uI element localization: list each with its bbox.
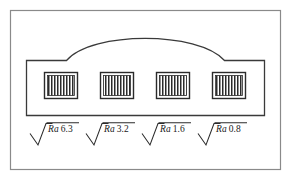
- surface-patch-4: [213, 73, 246, 99]
- ra-prefix-3: Ra: [160, 124, 173, 134]
- ra-prefix-2: Ra: [104, 124, 117, 134]
- roughness-label-4: Ra 0.8: [216, 124, 241, 134]
- roughness-label-3: Ra 1.6: [160, 124, 185, 134]
- ra-value-4: 0.8: [229, 124, 241, 134]
- engineering-drawing-figure: Ra 6.3 Ra 3.2 Ra 1.6 Ra 0.8: [0, 0, 291, 181]
- drawing-canvas: [0, 0, 291, 181]
- ra-value-2: 3.2: [117, 124, 129, 134]
- ra-value-1: 6.3: [61, 124, 73, 134]
- surface-patch-1: [45, 73, 78, 99]
- ra-prefix-1: Ra: [48, 124, 61, 134]
- roughness-label-2: Ra 3.2: [104, 124, 129, 134]
- surface-patch-3: [157, 73, 190, 99]
- ra-value-3: 1.6: [173, 124, 185, 134]
- roughness-label-1: Ra 6.3: [48, 124, 73, 134]
- ra-prefix-4: Ra: [216, 124, 229, 134]
- surface-patch-2: [101, 73, 134, 99]
